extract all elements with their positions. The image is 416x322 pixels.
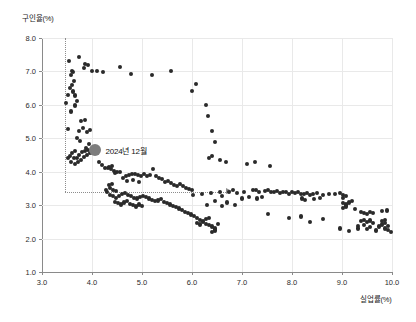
gridline-vertical [292, 38, 293, 272]
data-point [242, 190, 246, 194]
gridline-horizontal [42, 138, 392, 139]
data-point [224, 160, 228, 164]
data-point [233, 203, 237, 207]
data-point [247, 195, 251, 199]
data-point [374, 228, 378, 232]
data-point [210, 154, 214, 158]
data-point [312, 197, 316, 201]
data-point [333, 192, 337, 196]
x-tick-mark [192, 272, 193, 275]
data-point [83, 118, 87, 122]
data-point [137, 180, 141, 184]
data-point [303, 198, 307, 202]
data-point [235, 191, 239, 195]
data-point [66, 127, 70, 131]
x-tick-mark [142, 272, 143, 275]
data-point [315, 191, 319, 195]
data-point [140, 204, 144, 208]
data-point [207, 216, 211, 220]
data-point [190, 89, 194, 93]
data-point [204, 103, 208, 107]
gridline-horizontal [42, 205, 392, 206]
data-point [356, 226, 360, 230]
data-point [198, 222, 202, 226]
data-point [257, 190, 261, 194]
x-tick-label: 4.0 [77, 278, 107, 287]
data-point [338, 226, 342, 230]
data-point [205, 203, 209, 207]
data-point [118, 65, 122, 69]
gridline-vertical [342, 38, 343, 272]
data-point [365, 227, 369, 231]
data-point [73, 103, 77, 107]
data-point [385, 208, 389, 212]
data-point [350, 199, 354, 203]
x-tick-label: 7.0 [227, 278, 257, 287]
data-point [200, 192, 204, 196]
highlighted-data-point [89, 144, 101, 156]
data-point [101, 70, 105, 74]
data-point [131, 178, 135, 182]
data-point [150, 73, 154, 77]
data-point [245, 162, 249, 166]
data-point [110, 164, 114, 168]
data-point [268, 164, 272, 168]
data-point [287, 216, 291, 220]
x-axis-title: 실업률(%) [360, 293, 391, 304]
annotation-label: 2024년 12월 [106, 145, 147, 156]
data-point [125, 179, 129, 183]
data-point [216, 222, 220, 226]
y-tick-label: 8.0 [12, 34, 36, 43]
data-point [299, 214, 303, 218]
data-point [380, 209, 384, 213]
data-point [113, 171, 117, 175]
data-point [75, 99, 79, 103]
data-point [78, 139, 82, 143]
gridline-vertical [242, 38, 243, 272]
data-point [344, 194, 348, 198]
x-tick-label: 5.0 [127, 278, 157, 287]
data-point [255, 196, 259, 200]
data-point [353, 207, 357, 211]
data-point [118, 170, 122, 174]
data-point [260, 195, 264, 199]
reference-line-vertical [65, 38, 66, 192]
data-point [266, 212, 270, 216]
y-tick-label: 2.0 [12, 235, 36, 244]
data-point [77, 129, 81, 133]
data-point [69, 109, 73, 113]
x-axis-line [42, 272, 393, 273]
data-point [69, 73, 73, 77]
data-point [90, 69, 94, 73]
data-point [225, 200, 229, 204]
data-point [81, 126, 85, 130]
x-tick-label: 8.0 [277, 278, 307, 287]
data-point [213, 199, 217, 203]
x-tick-label: 6.0 [177, 278, 207, 287]
data-point [213, 228, 217, 232]
data-point [206, 114, 210, 118]
y-tick-label: 4.0 [12, 168, 36, 177]
data-point [194, 82, 198, 86]
data-point [318, 196, 322, 200]
data-point [253, 160, 257, 164]
data-point [73, 93, 77, 97]
data-point [67, 59, 71, 63]
data-point [389, 230, 393, 234]
data-point [110, 182, 114, 186]
gridline-vertical [192, 38, 193, 272]
x-tick-mark [92, 272, 93, 275]
y-tick-label: 5.0 [12, 134, 36, 143]
y-tick-label: 7.0 [12, 67, 36, 76]
data-point [129, 72, 133, 76]
y-tick-label: 3.0 [12, 201, 36, 210]
plot-area: 2024년 12월 [42, 38, 392, 272]
data-point [151, 167, 155, 171]
beveridge-curve-chart: 구인율(%) 실업률(%) 1.02.03.04.05.06.07.08.0 3… [0, 0, 416, 322]
x-tick-mark [392, 272, 393, 275]
x-tick-label: 3.0 [27, 278, 57, 287]
data-point [220, 194, 224, 198]
gridline-horizontal [42, 239, 392, 240]
data-point [308, 220, 312, 224]
data-point [88, 128, 92, 132]
